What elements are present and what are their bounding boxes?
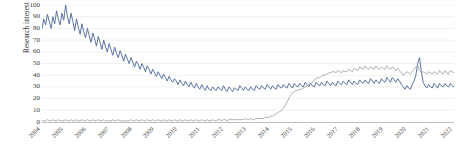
x-tick-2010: 2010	[165, 126, 179, 140]
y-tick-80: 80	[33, 25, 40, 32]
x-tick-2012: 2012	[211, 126, 225, 140]
x-tick-2009: 2009	[142, 126, 156, 140]
y-tick-100: 100	[30, 2, 41, 9]
research-interest-line-chart: Research interest [%] 100908070605040302…	[0, 0, 456, 152]
y-tick-50: 50	[33, 60, 40, 67]
x-tick-2015: 2015	[280, 126, 294, 140]
x-tick-2020: 2020	[394, 126, 408, 140]
y-tick-70: 70	[33, 37, 40, 44]
x-tick-2018: 2018	[348, 126, 362, 140]
x-tick-2021: 2021	[417, 126, 431, 140]
series-1-blue	[42, 5, 454, 92]
x-tick-2005: 2005	[51, 126, 65, 140]
y-tick-40: 40	[33, 72, 40, 79]
x-axis-tick-labels: 2004200520062007200820092010201120122013…	[0, 122, 456, 152]
x-tick-2017: 2017	[325, 126, 339, 140]
y-tick-10: 10	[33, 107, 40, 114]
y-tick-20: 20	[33, 95, 40, 102]
x-tick-2008: 2008	[119, 126, 133, 140]
x-tick-2006: 2006	[74, 126, 88, 140]
x-tick-2011: 2011	[188, 126, 201, 139]
x-tick-2022: 2022	[440, 126, 454, 140]
x-tick-2007: 2007	[96, 126, 110, 140]
x-tick-2004: 2004	[28, 126, 42, 140]
x-tick-2013: 2013	[234, 126, 248, 140]
x-tick-2019: 2019	[371, 126, 385, 140]
plot-svg	[42, 5, 454, 122]
x-tick-2014: 2014	[257, 126, 271, 140]
plot-area	[42, 5, 454, 122]
y-tick-60: 60	[33, 48, 40, 55]
y-tick-30: 30	[33, 83, 40, 90]
series-2-gray	[42, 66, 454, 121]
x-tick-2016: 2016	[302, 126, 316, 140]
y-tick-90: 90	[33, 13, 40, 20]
